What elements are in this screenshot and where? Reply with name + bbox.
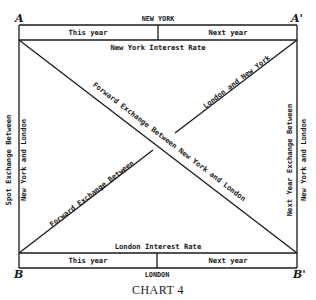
corner-label-a-prime: A' bbox=[290, 12, 303, 25]
top-this-year-label: This year bbox=[69, 28, 109, 37]
right-side-label-2: New York and London bbox=[299, 119, 308, 201]
corner-label-a: A bbox=[14, 12, 24, 25]
bottom-city-label: LONDON bbox=[145, 271, 170, 279]
left-side-label-2: New York and London bbox=[19, 119, 28, 201]
left-side-line1: Spot Exchange Between bbox=[4, 115, 13, 206]
secondary-diagonal-upper-label: London and New York bbox=[201, 53, 272, 111]
top-city-label: NEW YORK bbox=[142, 15, 176, 23]
bottom-interest-rate-label: London Interest Rate bbox=[115, 242, 202, 251]
bottom-this-year-label: This year bbox=[69, 256, 109, 265]
secondary-diagonal-lower-label: Forward Exchange Between bbox=[48, 158, 136, 228]
main-diagonal-label-group: Forward Exchange Between New York and Lo… bbox=[91, 80, 248, 203]
corner-label-b: B bbox=[13, 268, 23, 281]
right-side-label: Next Year Exchange Between bbox=[285, 104, 294, 217]
right-side-line1: Next Year Exchange Between bbox=[285, 104, 294, 217]
bottom-next-year-label: Next year bbox=[209, 256, 249, 265]
top-interest-rate-label: New York Interest Rate bbox=[110, 43, 206, 52]
main-diagonal-label: Forward Exchange Between New York and Lo… bbox=[91, 80, 248, 203]
secondary-lower-label-group: Forward Exchange Between bbox=[48, 158, 136, 228]
left-side-line2: New York and London bbox=[19, 119, 28, 201]
corner-label-b-prime: B' bbox=[292, 268, 306, 281]
right-side-line2: New York and London bbox=[299, 119, 308, 201]
chart-4-diagram: A A' B B' NEW YORK This year Next year N… bbox=[0, 0, 316, 300]
left-side-label: Spot Exchange Between bbox=[4, 115, 13, 206]
chart-caption: CHART 4 bbox=[132, 283, 184, 297]
top-next-year-label: Next year bbox=[209, 28, 249, 37]
secondary-upper-label-group: London and New York bbox=[201, 53, 272, 111]
